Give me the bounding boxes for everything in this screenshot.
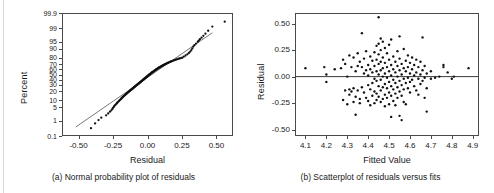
panel-b-x-tick-label: 4.9: [457, 142, 489, 150]
panel-a-y-tick-label: 20: [28, 88, 57, 95]
panel-b-y-tickmark: [292, 103, 295, 104]
panel-a-y-tickmark: [59, 13, 62, 14]
panel-a-y-tick-label: 99: [28, 25, 57, 32]
panel-a-plot-area: [62, 13, 233, 136]
panel-a-x-tickmark: [113, 136, 114, 139]
panel-a-y-tick-label: 80: [28, 54, 57, 61]
panel-a-y-tickmark: [59, 107, 62, 108]
panel-b-y-tick-label: 0.00: [253, 73, 290, 80]
panel-a-y-tickmark: [59, 75, 62, 76]
panel-a-y-tickmark: [59, 58, 62, 59]
panel-a-y-tickmark: [59, 28, 62, 29]
panel-b-x-tickmark: [410, 136, 411, 139]
panel-residuals-versus-fits: Residual -0.50-0.250.000.250.50 4.14.24.…: [247, 0, 494, 193]
panel-b-x-tickmark: [305, 136, 306, 139]
panel-a-y-tickmark: [59, 85, 62, 86]
panel-b-plot-area: [295, 13, 479, 136]
panel-b-x-tickmark: [326, 136, 327, 139]
panel-a-x-tickmark: [216, 136, 217, 139]
panel-b-y-tick-label: -0.25: [253, 99, 290, 106]
panel-b-x-tickmark: [389, 136, 390, 139]
panel-a-x-tickmark: [182, 136, 183, 139]
panel-b-x-tickmark: [473, 136, 474, 139]
panel-a-y-tick-label: 0.1: [28, 133, 57, 140]
panel-b-x-axis-title: Fitted Value: [295, 155, 479, 165]
panel-a-y-tickmark: [59, 100, 62, 101]
panel-b-x-tickmark: [368, 136, 369, 139]
panel-a-y-tick-label: 99.9: [28, 10, 57, 17]
panel-normal-probability-plot: Percent 0.115102030405060708090959999.9 …: [0, 0, 247, 193]
panel-a-x-axis-title: Residual: [62, 155, 233, 165]
panel-a-x-tick-label: 0.50: [194, 142, 238, 150]
panel-b-y-tickmark: [292, 24, 295, 25]
panel-b-x-tickmark: [347, 136, 348, 139]
panel-b-y-tick-label: 0.25: [253, 46, 290, 53]
panel-a-y-tick-label: 5: [28, 104, 57, 111]
panel-b-y-tickmark: [292, 50, 295, 51]
panel-a-y-tickmark: [59, 69, 62, 70]
panel-b-x-tickmark: [431, 136, 432, 139]
panel-b-caption: (b) Scatterplot of residuals versus fits: [247, 172, 494, 182]
panel-a-y-tick-label: 90: [28, 45, 57, 52]
panel-b-y-axis-title: Residual: [256, 63, 266, 100]
panel-a-x-tickmark: [79, 136, 80, 139]
panel-a-y-tickmark: [59, 121, 62, 122]
panel-a-y-tickmark: [59, 64, 62, 65]
panel-a-y-tick-label: 95: [28, 38, 57, 45]
panel-a-y-tickmark: [59, 42, 62, 43]
panel-a-y-tickmark: [59, 80, 62, 81]
panel-a-y-tick-label: 70: [28, 61, 57, 68]
panel-a-y-tickmark: [59, 91, 62, 92]
panel-a-caption: (a) Normal probability plot of residuals: [0, 172, 247, 182]
panel-a-y-tick-label: 1: [28, 117, 57, 124]
panel-b-y-tickmark: [292, 130, 295, 131]
panel-a-x-tickmark: [148, 136, 149, 139]
figure-container: Percent 0.115102030405060708090959999.9 …: [0, 0, 494, 193]
panel-b-y-tick-label: 0.50: [253, 20, 290, 27]
panel-b-x-tickmark: [452, 136, 453, 139]
panel-a-y-tickmark: [59, 49, 62, 50]
panel-a-y-tick-label: 10: [28, 97, 57, 104]
panel-a-y-tickmark: [59, 136, 62, 137]
panel-b-y-tickmark: [292, 77, 295, 78]
panel-b-y-tick-label: -0.50: [253, 126, 290, 133]
